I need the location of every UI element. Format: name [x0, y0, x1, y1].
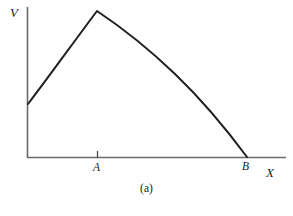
figure-caption: (a)	[0, 183, 293, 195]
x-axis-label: X	[266, 166, 274, 179]
tick-label-a: A	[93, 162, 100, 174]
value-curve	[28, 11, 247, 157]
tick-label-b: B	[242, 161, 249, 173]
figure-container: V X A B (a)	[0, 0, 293, 216]
y-axis-label: V	[10, 6, 18, 19]
